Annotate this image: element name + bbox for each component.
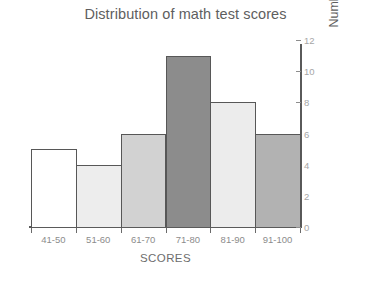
y-axis-tick-label: 12: [304, 35, 322, 46]
histogram-bar: [210, 102, 256, 227]
x-axis-tick: [166, 228, 167, 233]
y-axis-tick-label: 6: [304, 128, 322, 139]
x-axis-title: SCORES: [31, 252, 300, 264]
histogram-bar: [76, 165, 122, 227]
y-axis-tick: [296, 227, 301, 228]
y-axis-tick-label: 8: [304, 97, 322, 108]
x-axis-tick: [300, 228, 301, 233]
histogram-bar: [255, 134, 301, 228]
y-axis-tick-label: 2: [304, 190, 322, 201]
chart-title: Distribution of math test scores: [0, 6, 371, 22]
plot-area: [31, 40, 300, 227]
y-axis-tick: [296, 71, 301, 72]
x-axis-tick: [121, 228, 122, 233]
x-axis-tick: [31, 228, 32, 233]
y-axis-tick: [296, 102, 301, 103]
y-axis-title: Number of Students: [325, 0, 343, 63]
histogram-bar: [121, 134, 167, 228]
x-axis-tick: [255, 228, 256, 233]
y-axis-tick: [296, 40, 301, 41]
x-axis-tick: [210, 228, 211, 233]
y-axis-tick-label: 0: [304, 222, 322, 233]
histogram-chart: Distribution of math test scores 41-5051…: [0, 0, 371, 292]
y-axis-tick-label: 10: [304, 66, 322, 77]
histogram-bar: [166, 56, 212, 227]
y-axis-tick-label: 4: [304, 159, 322, 170]
x-axis-tick: [76, 228, 77, 233]
histogram-bar: [31, 149, 77, 227]
x-axis-tick-label: 91-100: [250, 234, 306, 245]
